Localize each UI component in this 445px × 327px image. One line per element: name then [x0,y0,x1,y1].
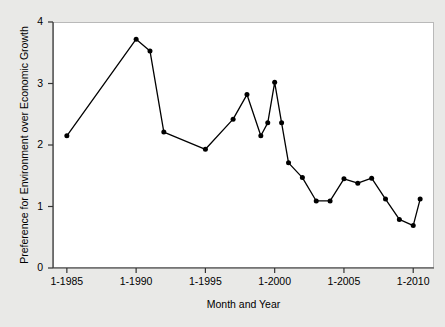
data-point-marker [265,120,270,125]
y-tick-label: 3 [25,77,43,89]
y-tick-label: 2 [25,138,43,150]
data-point-marker [341,176,346,181]
data-point-marker [272,80,277,85]
y-tick-label: 4 [25,15,43,27]
data-point-marker [231,117,236,122]
data-point-marker [411,223,416,228]
x-tick-label: 1-1990 [106,275,166,287]
data-point-marker [244,92,249,97]
data-point-marker [314,198,319,203]
data-point-marker [383,197,388,202]
x-tick-label: 1-2000 [245,275,305,287]
data-point-marker [286,160,291,165]
data-point-marker [203,147,208,152]
data-point-marker [279,120,284,125]
y-tick-label: 1 [25,200,43,212]
chart-figure: Preference for Environment over Economic… [0,0,445,327]
data-point-marker [328,198,333,203]
x-tick-label: 1-1985 [37,275,97,287]
data-point-marker [300,175,305,180]
data-point-marker [355,181,360,186]
axis-lines [53,22,434,268]
data-point-marker [418,197,423,202]
data-point-marker [147,48,152,53]
y-tick-marks [48,22,53,268]
y-tick-label: 0 [25,261,43,273]
x-tick-label: 1-1995 [175,275,235,287]
x-tick-label: 1-2005 [314,275,374,287]
x-axis-title: Month and Year [53,298,434,310]
data-point-marker [64,133,69,138]
data-point-marker [369,176,374,181]
x-tick-label: 1-2010 [383,275,443,287]
x-tick-marks [67,268,413,273]
data-series-line [67,39,420,225]
data-point-marker [397,217,402,222]
data-point-marker [161,130,166,135]
data-point-marker [258,133,263,138]
data-point-marker [134,37,139,42]
